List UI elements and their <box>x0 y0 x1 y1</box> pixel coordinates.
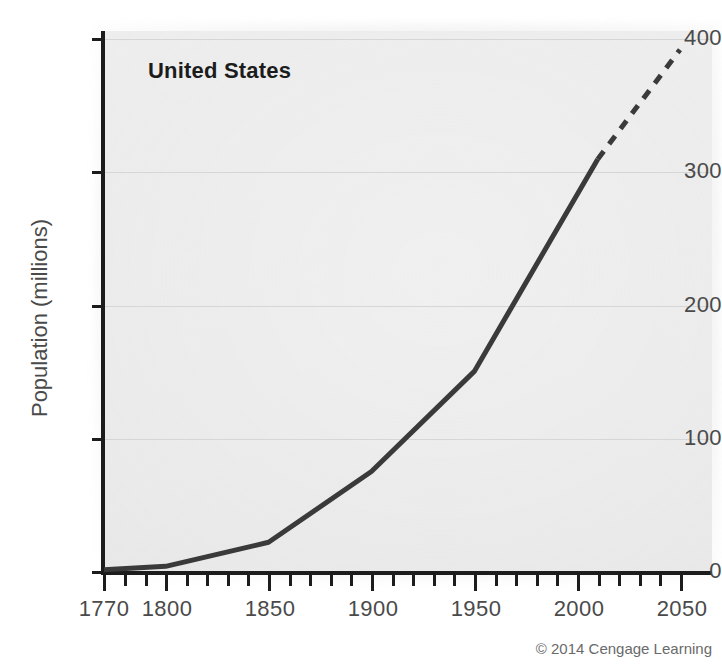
figure-root: 400 300 200 100 0 1770 1800 1850 1900 19… <box>0 0 722 668</box>
series-annotation-united-states: United States <box>148 58 291 84</box>
series-path-1 <box>598 50 680 159</box>
series-path-0 <box>104 159 598 570</box>
y-axis-label: Population (millions) <box>27 188 53 448</box>
population-curve <box>0 0 722 668</box>
copyright-credit: © 2014 Cengage Learning <box>536 640 712 657</box>
